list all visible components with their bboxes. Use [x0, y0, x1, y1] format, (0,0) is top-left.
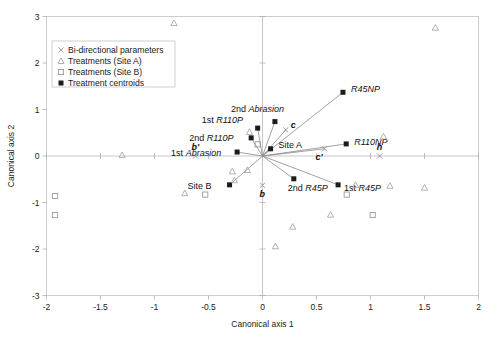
point-label: c: [291, 120, 296, 130]
vector-line: [230, 156, 263, 185]
x-tick-label: -1: [151, 302, 159, 312]
series-treatment-centroids: 1st R110P2nd R110P1st Abrasion2nd Abrasi…: [171, 84, 387, 193]
centroid-marker: [336, 182, 341, 187]
data-point-triangle: [432, 25, 438, 31]
data-point-square-open: [53, 193, 58, 198]
point-label: Site A: [279, 140, 303, 150]
x-tick-label: 0: [260, 302, 265, 312]
data-point-square-open: [370, 212, 375, 217]
y-tick-label: -3: [32, 291, 40, 301]
data-point-triangle: [387, 183, 393, 189]
y-tick-label: -2: [32, 244, 40, 254]
y-tick-label: 0: [35, 151, 40, 161]
data-point-triangle: [231, 177, 237, 183]
point-label: 1st R45P: [344, 183, 381, 193]
x-tick-label: -2: [43, 302, 51, 312]
vector-line: [263, 156, 294, 179]
point-label: c': [316, 152, 324, 162]
centroid-marker: [291, 176, 296, 181]
point-label: h: [377, 142, 383, 152]
vector-line: [263, 156, 339, 185]
vector-line: [237, 152, 262, 156]
point-label: 1st R110P: [202, 115, 243, 125]
y-tick-label: 3: [35, 12, 40, 22]
canonical-axes-scatter-plot: -2-1.5-1-0.500.511.52-3-2-10123Canonical…: [0, 0, 497, 347]
y-axis-title: Canonical axis 2: [6, 125, 16, 188]
point-label: R45NP: [351, 84, 380, 94]
centroid-marker: [340, 90, 345, 95]
x-tick-label: 0.5: [311, 302, 323, 312]
centroid-marker: [249, 135, 254, 140]
y-tick-label: 2: [35, 58, 40, 68]
data-point-triangle: [246, 129, 252, 135]
x-axis-title: Canonical axis 1: [231, 319, 294, 329]
data-point-triangle: [119, 152, 125, 158]
data-point-triangle: [272, 243, 278, 249]
centroid-marker: [59, 81, 64, 86]
legend-item-label: Bi-directional parameters: [68, 45, 164, 55]
x-tick-label: -1.5: [93, 302, 108, 312]
centroid-marker: [235, 150, 240, 155]
chart-figure: -2-1.5-1-0.500.511.52-3-2-10123Canonical…: [0, 0, 497, 347]
centroid-marker: [255, 126, 260, 131]
x-tick-label: 1: [368, 302, 373, 312]
data-point-triangle: [171, 20, 177, 26]
centroid-marker: [268, 146, 273, 151]
data-point-square-open: [203, 192, 208, 197]
data-point-triangle: [290, 224, 296, 230]
point-label: Site B: [188, 181, 212, 191]
x-tick-label: 1.5: [419, 302, 431, 312]
x-tick-label: -0.5: [201, 302, 216, 312]
legend-item-label: Treatment centroids: [68, 78, 144, 88]
point-label: b': [192, 142, 200, 152]
y-tick-label: -1: [32, 198, 40, 208]
y-tick-label: 1: [35, 105, 40, 115]
centroid-marker: [344, 141, 349, 146]
point-label: R110NP: [354, 137, 387, 147]
legend-item-label: Treatments (Site A): [68, 56, 142, 66]
data-point-triangle: [229, 168, 235, 174]
data-point-square-open: [255, 142, 260, 147]
data-point-triangle: [182, 190, 188, 196]
data-point-triangle: [327, 211, 333, 217]
legend: Bi-directional parametersTreatments (Sit…: [52, 41, 175, 88]
x-tick-label: 2: [476, 302, 481, 312]
legend-item-label: Treatments (Site B): [68, 67, 142, 77]
point-label: b: [260, 189, 266, 199]
data-point-square-open: [53, 212, 58, 217]
point-label: 2nd Abrasion: [231, 104, 284, 114]
point-label: 2nd R45P: [288, 183, 328, 193]
data-point-triangle: [421, 185, 427, 191]
centroid-marker: [272, 119, 277, 124]
